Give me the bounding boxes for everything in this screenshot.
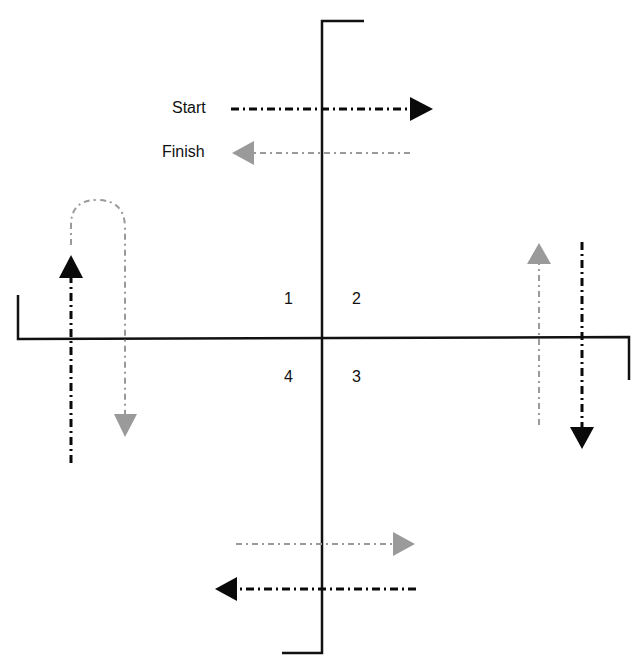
start-arrow xyxy=(231,97,433,121)
quadrant-1-label: 1 xyxy=(284,290,293,308)
bottom-right-arrow xyxy=(236,532,415,556)
quadrant-2-label: 2 xyxy=(352,290,361,308)
diagram-canvas xyxy=(0,0,642,663)
finish-label: Finish xyxy=(162,143,205,161)
horizontal-axis xyxy=(18,295,629,380)
left-uturn-arrow xyxy=(71,200,137,437)
quadrant-3-label: 3 xyxy=(352,368,361,386)
start-label: Start xyxy=(172,99,206,117)
right-down-arrow xyxy=(570,242,594,449)
right-up-arrow xyxy=(527,243,551,425)
left-up-arrow xyxy=(59,255,83,463)
quadrant-4-label: 4 xyxy=(284,368,293,386)
axes xyxy=(18,21,629,653)
bottom-left-arrow xyxy=(215,577,416,601)
